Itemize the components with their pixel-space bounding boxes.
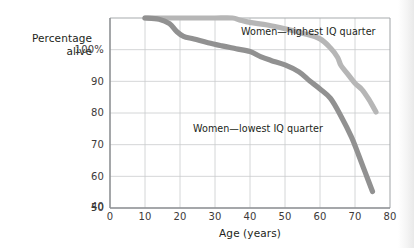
x-tick-label-10: 10: [130, 211, 160, 222]
x-tick-label-20: 20: [165, 211, 195, 222]
y-tick-label-70: 70: [62, 139, 104, 150]
y-tick-label-90: 90: [62, 76, 104, 87]
x-tick-label-0: 0: [95, 211, 125, 222]
x-tick-label-50: 50: [270, 211, 300, 222]
y-tick-label-60: 60: [62, 171, 104, 182]
series-annotation-lowest-iq: Women—lowest IQ quarter: [193, 123, 323, 134]
x-tick-label-70: 70: [340, 211, 370, 222]
x-tick-label-60: 60: [305, 211, 335, 222]
x-tick-label-80: 80: [375, 211, 405, 222]
chart-figure: Percentage alive: [0, 0, 414, 248]
x-axis-title: Age (years): [110, 227, 390, 239]
series-annotation-highest-iq: Women—highest IQ quarter: [241, 26, 376, 37]
x-tick-label-30: 30: [200, 211, 230, 222]
x-tick-label-40: 40: [235, 211, 265, 222]
y-tick-label-80: 80: [62, 107, 104, 118]
series-line-lowest-iq: [145, 18, 373, 192]
grid-lines: [110, 18, 390, 208]
y-tick-label-100: 100%: [62, 44, 104, 55]
